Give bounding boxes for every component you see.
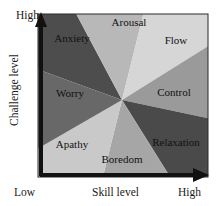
sector-label-arousal: Arousal bbox=[112, 16, 147, 28]
x-axis-title: Skill level bbox=[92, 186, 139, 198]
sector-label-relaxation: Relaxation bbox=[152, 136, 200, 148]
x-axis-low-label: Low bbox=[14, 186, 35, 198]
sector-label-flow: Flow bbox=[165, 34, 188, 46]
sector-label-worry: Worry bbox=[56, 87, 84, 99]
sector-label-boredom: Boredom bbox=[102, 153, 143, 165]
sector-label-apathy: Apathy bbox=[56, 138, 89, 150]
sector-label-control: Control bbox=[157, 86, 191, 98]
flow-diagram-svg: AnxietyArousalFlowControlRelaxationBored… bbox=[0, 0, 220, 206]
sector-label-anxiety: Anxiety bbox=[54, 32, 90, 44]
y-axis-high-label: High bbox=[16, 9, 39, 21]
y-axis-title: Challenge level bbox=[8, 54, 20, 126]
x-axis-high-label: High bbox=[178, 186, 201, 198]
flow-model-figure: AnxietyArousalFlowControlRelaxationBored… bbox=[0, 0, 220, 206]
